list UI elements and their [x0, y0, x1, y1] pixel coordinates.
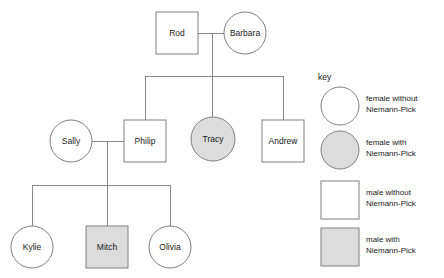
legend-male-affected-swatch: [321, 228, 359, 266]
pedigree-chart: RodBarbaraSallyPhilipTracyAndrewKylieMit…: [0, 0, 444, 278]
person-label-philip: Philip: [135, 136, 156, 146]
person-label-andrew: Andrew: [269, 136, 299, 146]
key-title: key: [318, 72, 332, 82]
person-label-barbara: Barbara: [230, 28, 261, 38]
person-kylie[interactable]: Kylie: [11, 226, 53, 268]
person-tracy[interactable]: Tracy: [191, 117, 235, 161]
legend-male-affected: male withNiemann-Pick: [321, 228, 417, 266]
legend-male-unaffected-line2: Niemann-Pick: [366, 199, 417, 208]
legend-male-unaffected-line1: male without: [366, 188, 412, 197]
pedigree-diagram: RodBarbaraSallyPhilipTracyAndrewKylieMit…: [0, 0, 444, 278]
person-label-mitch: Mitch: [97, 242, 118, 252]
person-mitch[interactable]: Mitch: [86, 226, 128, 268]
legend-female-affected-swatch: [321, 131, 359, 169]
legend-female-unaffected-line1: female without: [366, 94, 418, 103]
person-label-sally: Sally: [62, 136, 81, 146]
legend-male-unaffected-swatch: [321, 181, 359, 219]
legend-male-unaffected: male withoutNiemann-Pick: [321, 181, 417, 219]
legend-female-affected-line2: Niemann-Pick: [366, 149, 417, 158]
person-sally[interactable]: Sally: [50, 120, 92, 162]
legend-female-unaffected-line2: Niemann-Pick: [366, 105, 417, 114]
person-andrew[interactable]: Andrew: [262, 120, 304, 162]
legend-female-affected: female withNiemann-Pick: [321, 131, 417, 169]
person-barbara[interactable]: Barbara: [224, 12, 266, 54]
person-olivia[interactable]: Olivia: [149, 226, 191, 268]
person-rod[interactable]: Rod: [156, 12, 198, 54]
key-legend: keyfemale withoutNiemann-Pickfemale with…: [318, 72, 418, 266]
legend-male-affected-line2: Niemann-Pick: [366, 246, 417, 255]
legend-female-affected-line1: female with: [366, 138, 406, 147]
legend-female-unaffected: female withoutNiemann-Pick: [321, 87, 418, 125]
person-label-rod: Rod: [169, 28, 185, 38]
person-label-tracy: Tracy: [203, 134, 225, 144]
person-label-olivia: Olivia: [159, 242, 181, 252]
people-nodes: RodBarbaraSallyPhilipTracyAndrewKylieMit…: [11, 12, 304, 268]
person-philip[interactable]: Philip: [124, 120, 166, 162]
legend-male-affected-line1: male with: [366, 235, 400, 244]
legend-female-unaffected-swatch: [321, 87, 359, 125]
person-label-kylie: Kylie: [23, 242, 42, 252]
